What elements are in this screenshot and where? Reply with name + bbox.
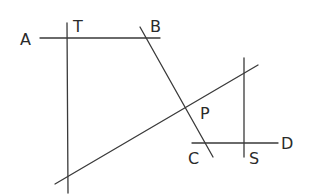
label-a: A bbox=[20, 30, 31, 49]
geometry-diagram: A T B P C S D bbox=[0, 0, 312, 196]
line-bc bbox=[140, 27, 213, 157]
label-d: D bbox=[281, 134, 293, 153]
label-c: C bbox=[188, 149, 199, 168]
line-transversal bbox=[55, 65, 258, 184]
label-p: P bbox=[200, 104, 210, 123]
line-t-vertical bbox=[67, 23, 68, 193]
label-s: S bbox=[249, 149, 259, 168]
label-t: T bbox=[72, 17, 83, 36]
label-b: B bbox=[150, 17, 161, 36]
